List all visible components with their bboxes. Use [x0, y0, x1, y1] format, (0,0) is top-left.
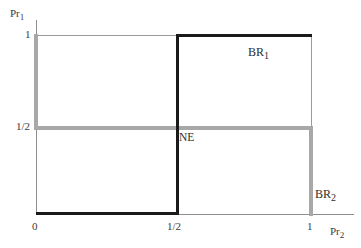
br2-segment-right-vertical: [309, 126, 313, 216]
br1-segment-middle-vertical: [176, 35, 179, 215]
x-tick-label-0: 0: [32, 221, 38, 232]
y-tick-label-1: 1: [25, 29, 31, 40]
y-axis-label: Pr1: [10, 8, 24, 22]
br1-segment-bottom-horizontal: [36, 212, 177, 215]
br1-label: BR1: [248, 46, 269, 61]
x-tick-label-half: 1/2: [167, 221, 181, 232]
ne-label: NE: [179, 132, 194, 144]
br2-label-sub: 2: [331, 192, 336, 203]
frame-right-upper-segment: [311, 35, 312, 128]
x-tick-label-1: 1: [307, 221, 313, 232]
x-axis-label: Pr2: [330, 226, 344, 240]
y-axis-label-base: Pr: [10, 7, 20, 19]
br2-segment-middle-horizontal: [34, 126, 313, 130]
br2-label: BR2: [315, 188, 336, 203]
br1-segment-top-horizontal: [176, 34, 312, 37]
br1-label-sub: 1: [264, 50, 269, 61]
br2-segment-left-vertical: [34, 34, 38, 130]
y-axis-label-sub: 1: [20, 12, 25, 22]
br2-label-base: BR: [315, 187, 331, 201]
frame-top-left-segment: [36, 35, 176, 36]
y-tick-label-half: 1/2: [16, 121, 30, 132]
best-response-diagram: Pr1 Pr2 1 1/2 0 1/2 1 BR1 BR2 NE: [0, 0, 361, 248]
x-axis-label-sub: 2: [340, 230, 345, 240]
x-axis-label-base: Pr: [330, 225, 340, 237]
br1-label-base: BR: [248, 45, 264, 59]
